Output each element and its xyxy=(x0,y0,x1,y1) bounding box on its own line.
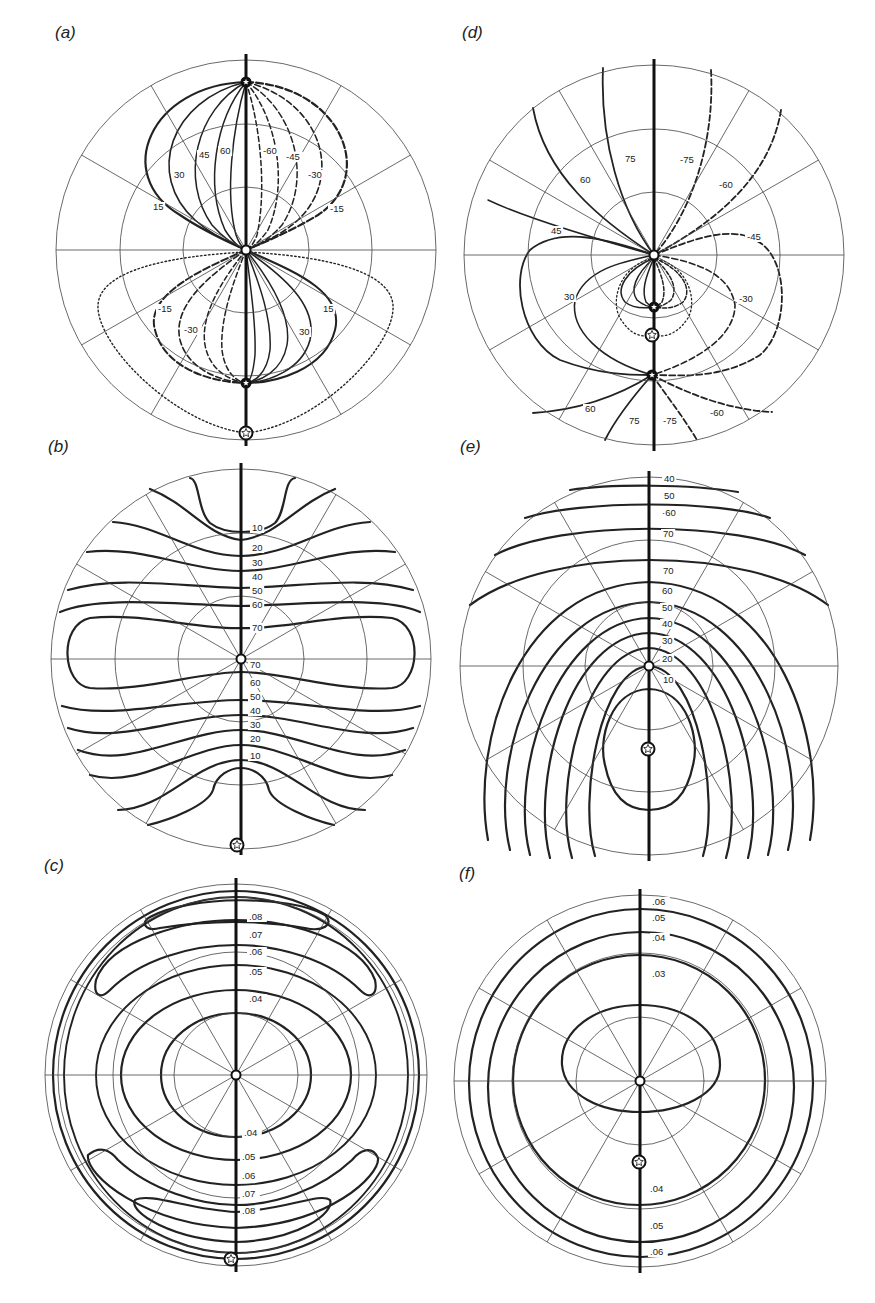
contour-label: .06 xyxy=(249,946,262,957)
contour-label: 60 xyxy=(662,585,673,596)
contour-label: -75 xyxy=(663,415,677,426)
contour-label: 40 xyxy=(664,473,675,484)
contour-label: -30 xyxy=(739,293,753,304)
panel-label-e: (e) xyxy=(460,437,481,457)
contour-label: 10 xyxy=(663,674,674,685)
contour-label: .07 xyxy=(249,929,262,940)
contour-label: 60 xyxy=(252,599,263,610)
contour-label: -30 xyxy=(308,169,322,180)
pole-circle-icon xyxy=(232,1071,241,1080)
pole-circle-icon xyxy=(242,246,251,255)
contour-label: .06 xyxy=(242,1170,255,1181)
contour-label: .03 xyxy=(652,968,665,979)
contour-label: -45 xyxy=(747,231,761,242)
contour-label: -60 xyxy=(719,179,733,190)
pole-circle-icon xyxy=(645,662,654,671)
pole-circle-icon xyxy=(636,1077,645,1086)
contour-label: -60 xyxy=(710,407,724,418)
contour-label: 30 xyxy=(662,635,673,646)
contour-label: 10 xyxy=(250,750,261,761)
contour-label: 40 xyxy=(250,705,261,716)
contour-label: .08 xyxy=(242,1205,255,1216)
contour-label: .04 xyxy=(652,932,665,943)
contour-label: 50 xyxy=(252,585,263,596)
panel-d-contours xyxy=(488,68,782,440)
contour-label: 30 xyxy=(250,719,261,730)
contour-label: 60 xyxy=(580,174,591,185)
contour-label: -30 xyxy=(184,324,198,335)
contour-label: .06 xyxy=(652,896,665,907)
contour-label: 45 xyxy=(199,149,210,160)
panel-label-b: (b) xyxy=(48,437,69,457)
contour-label: 60 xyxy=(250,677,261,688)
contour-label: 10 xyxy=(252,522,263,533)
contour-label: .05 xyxy=(242,1151,255,1162)
contour-label: .04 xyxy=(249,993,262,1004)
contour-label: .06 xyxy=(650,1246,663,1257)
contour-label: 60 xyxy=(585,403,596,414)
contour-label: 30 xyxy=(564,291,575,302)
contour-label: 70 xyxy=(250,659,261,670)
contour-label: 50 xyxy=(662,602,673,613)
contour-label: .05 xyxy=(650,1220,663,1231)
contour-label: .07 xyxy=(242,1188,255,1199)
contour-label: -15 xyxy=(158,303,172,314)
contour-label: 75 xyxy=(625,153,636,164)
panel-label-f: (f) xyxy=(459,864,475,884)
contour-label: 70 xyxy=(663,565,674,576)
pole-circle-icon xyxy=(237,655,246,664)
contour-label: 20 xyxy=(252,542,263,553)
contour-label: -75 xyxy=(680,154,694,165)
contour-label: 40 xyxy=(662,618,673,629)
contour-label: 70 xyxy=(663,528,674,539)
contour-label: 40 xyxy=(252,571,263,582)
contour-label: .05 xyxy=(249,966,262,977)
panel-label-a: (a) xyxy=(55,23,76,43)
contour-label: 30 xyxy=(174,169,185,180)
contour-label: 60 xyxy=(220,145,231,156)
contour-label: ·60 xyxy=(662,507,676,518)
contour-label: 75 xyxy=(629,415,640,426)
contour-label: .04 xyxy=(244,1127,257,1138)
contour-label: .08 xyxy=(249,911,262,922)
contour-label: 15 xyxy=(323,303,334,314)
contour-label: -45 xyxy=(286,151,300,162)
contour-label: 50 xyxy=(664,490,675,501)
contour-label: 50 xyxy=(250,691,261,702)
contour-label: 70 xyxy=(252,622,263,633)
contour-label: .05 xyxy=(652,912,665,923)
contour-label: .04 xyxy=(650,1183,663,1194)
contour-label: 30 xyxy=(299,326,310,337)
contour-label: -15 xyxy=(330,203,344,214)
contour-label: 30 xyxy=(252,557,263,568)
contour-label: 20 xyxy=(662,653,673,664)
contour-label: 20 xyxy=(250,733,261,744)
panel-label-c: (c) xyxy=(44,856,64,876)
figure-canvas: 60453015-60-45-30-15-15-30301575604530-7… xyxy=(0,0,875,1303)
contour-label: 45 xyxy=(551,225,562,236)
figure: 60453015-60-45-30-15-15-30301575604530-7… xyxy=(0,0,875,1303)
contour-label: 15 xyxy=(153,201,164,212)
pole-circle-icon xyxy=(650,251,659,260)
contour-label: -60 xyxy=(263,145,277,156)
panel-label-d: (d) xyxy=(462,23,483,43)
